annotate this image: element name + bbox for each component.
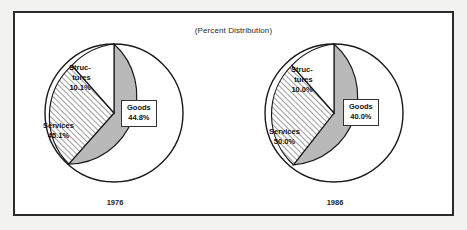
- pie-svg-1986: [260, 39, 410, 189]
- chart-title: (Percent Distribution): [15, 26, 452, 35]
- pie-chart-1976: Struc- tures 10.1% Services 45.1% Goods …: [27, 39, 203, 209]
- slice-label-services-1976: Services 45.1%: [43, 121, 74, 141]
- figure-frame: (Percent Distribution) Struc- tures 10.1…: [13, 11, 454, 216]
- slice-label-goods-1976: Goods 44.8%: [121, 100, 157, 127]
- slice-label-goods-1986: Goods 40.0%: [343, 99, 379, 126]
- pie-svg-1976: [40, 39, 190, 189]
- slice-label-services-1986: Services 50.0%: [269, 127, 300, 147]
- slice-label-structures-1976: Struc- tures 10.1%: [69, 63, 91, 93]
- slice-label-structures-1986: Struc- tures 10.0%: [291, 65, 313, 95]
- pie-chart-1986: Struc- tures 10.0% Services 50.0% Goods …: [247, 39, 423, 209]
- year-caption-1976: 1976: [27, 198, 203, 207]
- year-caption-1986: 1986: [247, 198, 423, 207]
